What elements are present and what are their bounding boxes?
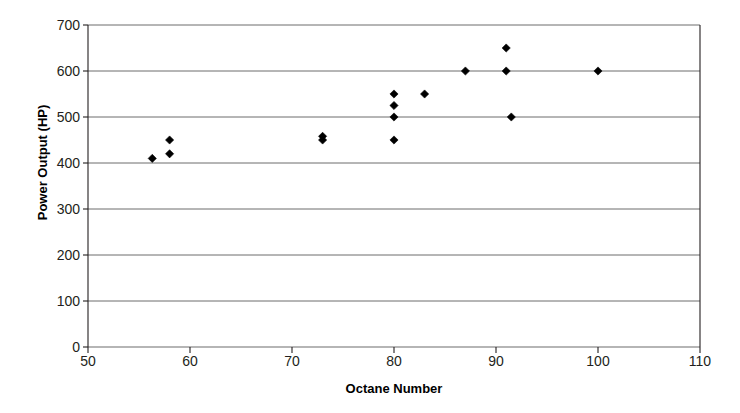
x-tick-label: 60 — [160, 354, 220, 368]
x-tick-label: 80 — [364, 354, 424, 368]
scatter-chart: Power Output (HP) 0100200300400500600700… — [0, 0, 740, 413]
data-point — [390, 113, 398, 121]
data-point — [502, 44, 510, 52]
data-point — [594, 67, 602, 75]
data-point — [148, 154, 156, 162]
data-point — [502, 67, 510, 75]
x-tick-label: 50 — [58, 354, 118, 368]
data-point — [166, 150, 174, 158]
data-point — [421, 90, 429, 98]
data-point — [390, 101, 398, 109]
x-axis-title: Octane Number — [88, 381, 700, 396]
x-tick-label: 100 — [568, 354, 628, 368]
data-point — [390, 136, 398, 144]
data-point — [461, 67, 469, 75]
x-tick-label: 70 — [262, 354, 322, 368]
x-tick-label: 90 — [466, 354, 526, 368]
plot-area — [0, 0, 740, 413]
x-tick-label: 110 — [670, 354, 730, 368]
data-point — [166, 136, 174, 144]
data-point — [507, 113, 515, 121]
data-point — [390, 90, 398, 98]
